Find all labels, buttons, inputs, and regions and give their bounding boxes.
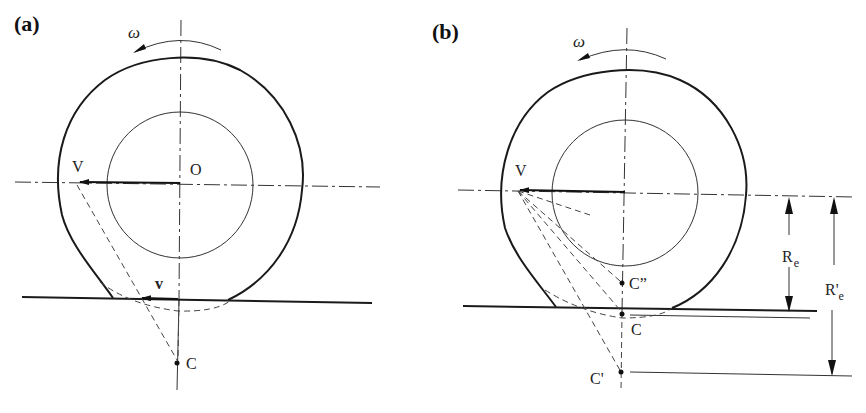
tire-rolling-radius-diagram: (a) ω V O v C (b: [0, 0, 866, 413]
panel-a: (a) ω V O v C: [14, 11, 380, 390]
omega-label: ω: [128, 23, 140, 42]
svg-text:R'e: R'e: [825, 281, 844, 303]
velocity-vector: [520, 190, 625, 192]
line-to-c: [518, 191, 620, 310]
rotation-arrow-icon: [133, 40, 221, 53]
horizontal-axis: [15, 182, 380, 187]
svg-text:Re: Re: [782, 248, 799, 270]
c-point: [620, 312, 625, 317]
velocity-line: [77, 185, 177, 360]
arrow-up-icon: [785, 197, 793, 214]
re-subscript: e: [794, 256, 799, 270]
c-prime-point: [619, 370, 624, 375]
c-label: C: [631, 321, 642, 338]
line-to-c-prime: [518, 191, 621, 372]
velocity-vector: [80, 182, 180, 183]
undeformed-arc: [100, 282, 230, 311]
contact-velocity-label: v: [155, 275, 163, 292]
rotation-arrow-icon: [577, 50, 666, 61]
line-to-c-double-prime: [518, 191, 620, 281]
center-label: O: [190, 161, 202, 178]
velocity-label: V: [72, 158, 84, 175]
velocity-label: V: [515, 162, 527, 179]
c-double-prime-label: C”: [629, 275, 647, 292]
c-double-prime-point: [620, 281, 625, 286]
instant-center-label: C: [186, 355, 197, 372]
re-prime-dimension: R'e: [825, 197, 844, 376]
ground-line: [463, 306, 817, 311]
horizontal-axis: [458, 190, 855, 197]
re-dimension: Re: [782, 197, 799, 312]
re-prime-subscript: e: [839, 289, 844, 303]
re-label: R: [782, 248, 793, 265]
arrow-up-icon: [830, 197, 838, 214]
omega-label: ω: [573, 32, 585, 51]
arrow-down-icon: [828, 360, 836, 376]
instant-center-point: [175, 361, 180, 366]
ground-line: [22, 297, 372, 303]
panel-a-label: (a): [14, 11, 40, 36]
contact-velocity-vector: [142, 298, 178, 299]
c-prime-reference-line: [630, 372, 852, 376]
c-prime-label: C': [590, 370, 604, 387]
undeformed-arc: [545, 290, 672, 318]
panel-b-label: (b): [432, 19, 459, 44]
effective-radius-line: [630, 315, 810, 318]
panel-b: (b) ω V C” C: [432, 19, 855, 392]
tire-outer-contour: [501, 70, 746, 308]
re-prime-label: R': [825, 281, 839, 298]
